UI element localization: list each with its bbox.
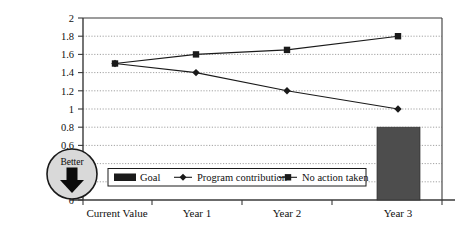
legend-label-no-action-taken: No action taken (302, 172, 369, 183)
chart-legend: Goal Program contribution No action take… (108, 169, 369, 187)
no-action-taken-marker-year-1 (193, 51, 199, 57)
legend-label-program-contribution: Program contribution (197, 172, 288, 183)
x-tick-label-year-3: Year 3 (384, 207, 413, 219)
y-tick-label-1: 1 (69, 104, 74, 115)
x-tick-label-current-value: Current Value (86, 207, 147, 219)
better-badge-label: Better (60, 157, 84, 167)
y-tick-label-1.6: 1.6 (61, 49, 74, 60)
no-action-taken-marker-year-3 (395, 33, 401, 39)
goal-bar-year-3 (377, 127, 420, 200)
line-chart: 2 1.8 1.6 1.4 1.2 1 0.8 0.6 0.4 0.2 0 (0, 0, 464, 231)
y-tick-label-1.2: 1.2 (61, 86, 74, 97)
y-tick-label-1.4: 1.4 (61, 67, 75, 78)
legend-swatch-goal-icon (114, 174, 136, 182)
x-tick-label-year-2: Year 2 (273, 207, 302, 219)
legend-label-goal: Goal (140, 172, 160, 183)
no-action-taken-marker-year-2 (284, 47, 290, 53)
chart-container: 2 1.8 1.6 1.4 1.2 1 0.8 0.6 0.4 0.2 0 (0, 0, 464, 231)
y-tick-label-1.8: 1.8 (61, 31, 74, 42)
x-tick-label-year-1: Year 1 (183, 207, 212, 219)
y-tick-label-0.8: 0.8 (61, 122, 74, 133)
better-direction-badge: Better (47, 149, 97, 199)
legend-square-marker-icon (285, 174, 291, 180)
y-tick-label-2: 2 (69, 13, 74, 24)
